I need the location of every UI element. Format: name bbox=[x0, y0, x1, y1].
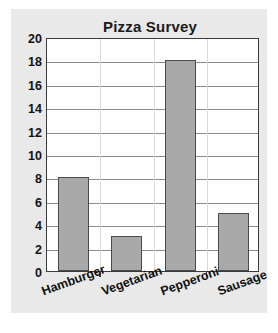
category-separator bbox=[207, 39, 208, 271]
y-axis-tick-label: 18 bbox=[28, 56, 42, 69]
x-axis-label: Sausage bbox=[216, 268, 269, 297]
bar bbox=[111, 236, 142, 271]
y-axis-tick-label: 10 bbox=[28, 150, 42, 163]
y-axis-tick-label: 8 bbox=[35, 173, 42, 186]
y-axis-tick-label: 4 bbox=[35, 220, 42, 233]
bar bbox=[218, 213, 249, 272]
chart-figure: Pizza Survey 02468101214161820 Hamburger… bbox=[11, 9, 267, 313]
y-axis-tick-label: 2 bbox=[35, 243, 42, 256]
y-axis-tick-label: 12 bbox=[28, 126, 42, 139]
gridline bbox=[47, 156, 258, 157]
y-axis-tick-label: 16 bbox=[28, 80, 42, 93]
gridline bbox=[47, 86, 258, 87]
category-separator bbox=[100, 39, 101, 271]
y-axis-tick-label: 6 bbox=[35, 197, 42, 210]
chart-title: Pizza Survey bbox=[11, 18, 267, 35]
bar bbox=[165, 60, 196, 271]
bar bbox=[58, 177, 89, 271]
gridline bbox=[47, 109, 258, 110]
y-axis-tick-label: 20 bbox=[28, 33, 42, 46]
plot-area: 02468101214161820 bbox=[46, 38, 259, 272]
gridline bbox=[47, 133, 258, 134]
y-axis-tick-label: 0 bbox=[35, 267, 42, 280]
y-axis-tick-label: 14 bbox=[28, 103, 42, 116]
category-separator bbox=[154, 39, 155, 271]
gridline bbox=[47, 62, 258, 63]
